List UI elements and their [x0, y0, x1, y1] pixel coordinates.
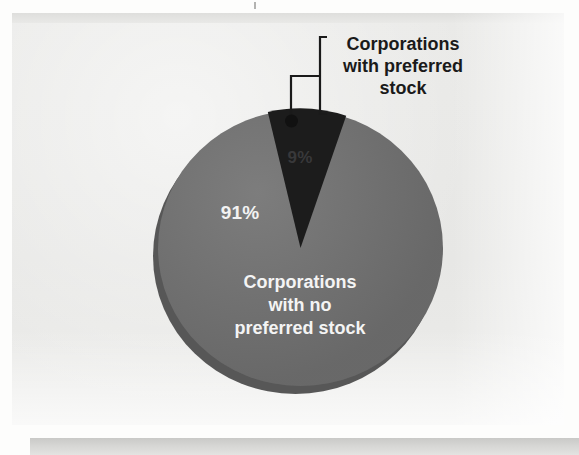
chart-page: 91% 9% Corporations with no preferred st…: [0, 0, 579, 455]
callout-label-line-1: Corporations: [328, 33, 478, 55]
callout-leader-line: [0, 0, 579, 455]
callout-label: Corporations with preferred stock: [328, 33, 478, 99]
callout-label-line-3: stock: [328, 77, 478, 99]
pie-chart: 91% 9% Corporations with no preferred st…: [0, 0, 579, 455]
callout-label-line-2: with preferred: [328, 55, 478, 77]
